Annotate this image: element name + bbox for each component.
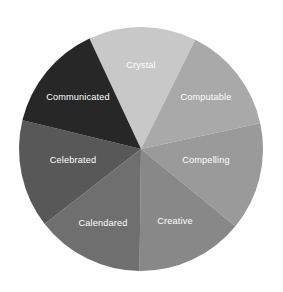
pie-slice-label-compelling: Compelling: [182, 155, 229, 165]
pie-chart-page: CrystalComputableCompellingCreativeCalen…: [0, 0, 283, 292]
pie-chart: CrystalComputableCompellingCreativeCalen…: [0, 0, 283, 292]
pie-slice-label-communicated: Communicated: [46, 92, 110, 102]
pie-slice-label-crystal: Crystal: [126, 60, 156, 70]
pie-slice-label-computable: Computable: [180, 92, 231, 102]
pie-slice-label-calendared: Calendared: [78, 218, 127, 228]
pie-slice-label-creative: Creative: [157, 216, 192, 226]
pie-slice-label-celebrated: Celebrated: [50, 155, 96, 165]
